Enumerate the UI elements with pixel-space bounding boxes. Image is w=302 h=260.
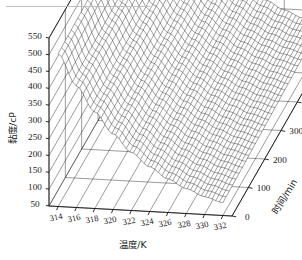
y-axis-tick — [46, 121, 49, 122]
z-axis-tick-label: 300 — [289, 126, 302, 136]
x-axis-title: 温度/K — [119, 237, 146, 251]
y-axis-tick-label: 300 — [28, 115, 42, 125]
y-axis-tick-label: 500 — [28, 48, 42, 58]
y-axis-tick — [46, 105, 49, 106]
y-axis-tick-label: 550 — [28, 31, 42, 41]
z-axis-tick-label: 100 — [257, 183, 271, 193]
y-axis-tick — [46, 71, 49, 72]
x-axis-tick — [130, 211, 132, 215]
y-axis-tick — [46, 54, 49, 55]
z-axis-tick-label: 0 — [245, 212, 250, 222]
z-axis-tick-label: 200 — [273, 155, 287, 165]
x-axis-tick — [93, 209, 95, 213]
surface-plot-figure: 5010015020025030035040045050055031431631… — [0, 0, 302, 260]
y-axis-tick — [46, 172, 49, 173]
x-axis-tick — [185, 214, 187, 218]
y-axis-tick — [46, 205, 49, 206]
y-axis-tick-label: 50 — [30, 199, 39, 209]
z-axis-tick — [232, 216, 236, 217]
y-axis-tick — [46, 155, 49, 156]
z-axis-tick — [297, 102, 301, 103]
x-axis-tick — [221, 216, 223, 220]
x-axis-tick — [203, 215, 205, 219]
x-axis-tick — [75, 208, 77, 212]
z-axis-tick — [281, 131, 285, 132]
y-axis-tick-label: 100 — [28, 182, 42, 192]
y-axis-tick-label: 150 — [28, 165, 42, 175]
y-axis-tick-label: 250 — [28, 132, 42, 142]
y-axis-tick-label: 400 — [28, 81, 42, 91]
y-axis-tick-label: 350 — [28, 98, 42, 108]
y-axis-tick — [46, 189, 49, 190]
z-axis-tick — [248, 188, 252, 189]
y-axis-tick — [46, 138, 49, 139]
y-axis-tick-label: 450 — [28, 65, 42, 75]
x-axis-tick — [57, 207, 59, 211]
y-axis-title: 黏度/cP — [5, 112, 19, 144]
scan-artifact-line — [6, 6, 150, 7]
y-axis-tick — [46, 88, 49, 89]
x-axis-tick — [111, 210, 113, 214]
y-axis-tick-label: 200 — [28, 149, 42, 159]
x-axis-tick — [166, 213, 168, 217]
y-axis-tick — [46, 37, 49, 38]
z-axis-tick — [265, 159, 269, 160]
x-axis-tick — [148, 212, 150, 216]
